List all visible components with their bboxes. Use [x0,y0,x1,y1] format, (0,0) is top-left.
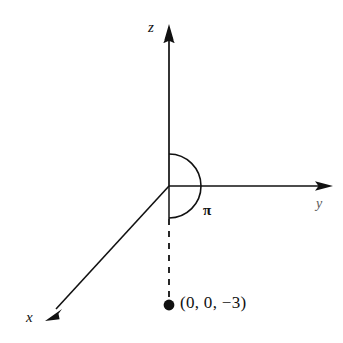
y-axis-label: y [316,197,322,211]
coordinate-axes-figure: z y x π (0, 0, −3) [0,0,343,343]
point-coordinate-label: (0, 0, −3) [180,294,246,311]
x-axis-arrowhead [45,309,62,321]
pi-angle-label: π [203,203,211,218]
x-axis-label: x [26,310,33,325]
plotted-point-marker [164,300,175,311]
x-axis-line [56,186,169,309]
axes-drawing [0,0,343,343]
z-axis-label: z [148,20,154,35]
